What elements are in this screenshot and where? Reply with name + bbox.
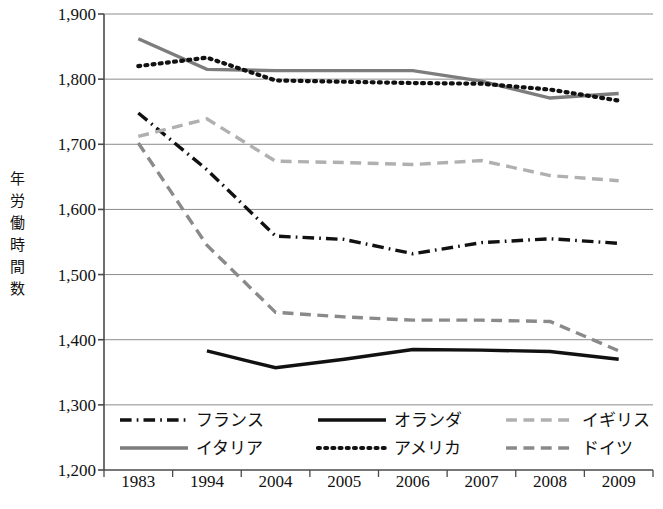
legend-line-swatch-icon (118, 441, 190, 455)
x-axis-tick-label: 2007 (446, 472, 516, 492)
legend-label: フランス (196, 412, 264, 429)
gridlines (104, 14, 653, 405)
legend-label: オランダ (394, 412, 462, 429)
x-axis-tick-label: 2005 (309, 472, 379, 492)
chart-page: 年労働時間数 1,9001,8001,7001,6001,5001,4001,3… (0, 0, 663, 509)
legend-line-swatch-icon (316, 441, 388, 455)
x-axis-tick-label: 2004 (241, 472, 311, 492)
series-line-イギリス (138, 119, 618, 181)
x-axis-tick-label: 1994 (172, 472, 242, 492)
legend-line-swatch-icon (118, 413, 190, 427)
legend-line-swatch-icon (316, 413, 388, 427)
series-line-フランス (138, 113, 618, 254)
legend-item[interactable]: イギリス (504, 407, 650, 433)
x-axis-tick-label: 2009 (584, 472, 654, 492)
legend-label: イギリス (582, 412, 650, 429)
x-axis-tick-label: 2008 (515, 472, 585, 492)
legend-item[interactable]: イタリア (118, 435, 263, 461)
x-axis-tick-label: 2006 (378, 472, 448, 492)
data-series-group (138, 39, 618, 368)
legend-item[interactable]: オランダ (316, 407, 462, 433)
legend-line-swatch-icon (504, 441, 576, 455)
legend-label: イタリア (196, 440, 263, 457)
series-line-オランダ (207, 349, 619, 367)
legend-item[interactable]: ドイツ (504, 435, 633, 461)
chart-legend: フランスオランダイギリスイタリアアメリカドイツ (104, 403, 653, 465)
legend-item[interactable]: フランス (118, 407, 264, 433)
legend-label: アメリカ (394, 440, 461, 457)
legend-item[interactable]: アメリカ (316, 435, 461, 461)
legend-label: ドイツ (582, 440, 633, 457)
x-axis-tick-label: 1983 (103, 472, 173, 492)
legend-line-swatch-icon (504, 413, 576, 427)
x-axis-tick-labels: 19831994200420052006200720082009 (104, 472, 653, 502)
